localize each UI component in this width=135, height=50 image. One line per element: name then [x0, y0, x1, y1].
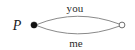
- edge-me-arc: [37, 26, 119, 34]
- edge-you-arc: [37, 16, 119, 24]
- filled-dot-icon: [31, 22, 37, 28]
- edge-label-you: you: [67, 3, 84, 14]
- figure-canvas: P you me: [0, 0, 135, 50]
- hollow-circle-icon: [119, 22, 125, 28]
- edge-label-me: me: [69, 38, 83, 49]
- point-label-p: P: [13, 19, 22, 33]
